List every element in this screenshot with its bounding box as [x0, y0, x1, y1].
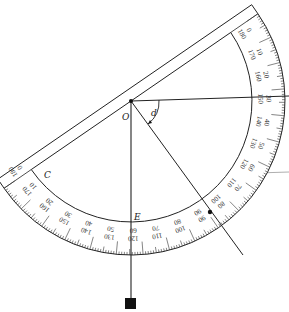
plumb-bob: [125, 298, 136, 309]
outer-scale-number: 120: [128, 234, 139, 242]
label-angle-d: d: [151, 108, 157, 118]
label-center-O: O: [122, 112, 130, 122]
inner-scale-number: 140: [254, 115, 264, 127]
inner-scale-number: 60: [129, 226, 137, 234]
protractor-outline: [0, 5, 285, 255]
inner-scale-number: 150: [256, 93, 264, 104]
label-point-E: E: [133, 212, 141, 222]
center-point: [129, 99, 133, 103]
protractor: 0180101702016030150401405013060120701108…: [0, 5, 285, 255]
protractor-diagram: 0180101702016030150401405013060120701108…: [0, 0, 289, 312]
label-point-C: C: [44, 170, 51, 180]
marker-dot: [208, 210, 212, 214]
